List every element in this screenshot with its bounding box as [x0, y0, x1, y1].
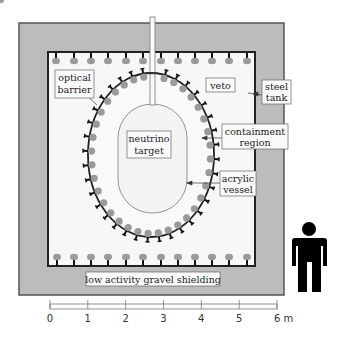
svg-text:barrier: barrier	[57, 84, 91, 95]
svg-text:target: target	[134, 145, 164, 156]
label-steel-tank: steel tank	[262, 80, 291, 104]
svg-text:vessel: vessel	[222, 184, 252, 195]
scale-tick-6: 6 m	[274, 313, 293, 324]
svg-text:neutrino: neutrino	[128, 133, 169, 144]
svg-text:steel: steel	[265, 81, 288, 92]
label-optical-barrier: optical barrier	[55, 70, 94, 98]
veto-pmts-top	[0, 0, 4, 3]
neutrino-target-vessel	[118, 104, 187, 213]
label-neutrino-target: neutrino target	[127, 131, 171, 158]
svg-text:optical: optical	[58, 72, 91, 83]
scale-tick-3: 3	[160, 313, 166, 324]
svg-text:low activity gravel shielding: low activity gravel shielding	[85, 274, 221, 285]
scale-tick-0: 0	[47, 313, 53, 324]
svg-text:containment: containment	[225, 126, 286, 137]
detector-diagram: optical barrier veto steel tank neutrino…	[0, 0, 344, 339]
scale-tick-5: 5	[236, 313, 242, 324]
human-figure-icon	[292, 222, 327, 292]
label-gravel-shielding: low activity gravel shielding	[85, 272, 221, 286]
label-acrylic-vessel: acrylic vessel	[220, 171, 256, 196]
label-containment-region: containment region	[222, 124, 288, 149]
svg-text:region: region	[239, 137, 270, 148]
svg-text:tank: tank	[266, 92, 288, 103]
scale-tick-1: 1	[85, 313, 91, 324]
label-veto: veto	[206, 78, 235, 92]
scale-tick-4: 4	[198, 313, 204, 324]
scale-tick-2: 2	[123, 313, 129, 324]
svg-text:acrylic: acrylic	[222, 173, 254, 184]
svg-text:veto: veto	[209, 80, 231, 91]
chimney-inner	[150, 74, 155, 105]
scale-bar: 0 1 2 3 4 5 6 m	[47, 300, 293, 324]
